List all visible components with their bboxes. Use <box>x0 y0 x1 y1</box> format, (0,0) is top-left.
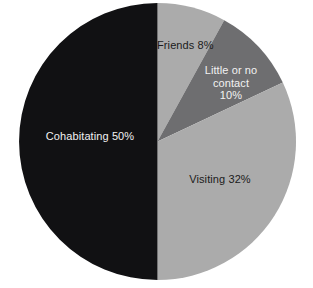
pie-chart: Friends 8% Little or nocontact10% Visiti… <box>0 0 313 288</box>
pie-slices <box>19 3 296 280</box>
pie-chart-canvas <box>0 0 313 288</box>
pie-slice-cohabitating[interactable] <box>19 3 157 280</box>
